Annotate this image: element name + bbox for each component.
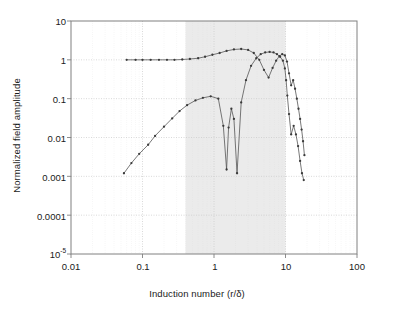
series-point-1 <box>236 172 238 174</box>
chart-figure: Normalized field amplitude 10 1 0.1 0.01… <box>0 0 394 312</box>
series-point-1 <box>217 98 219 100</box>
series-point-0 <box>189 58 191 60</box>
series-point-0 <box>258 59 260 61</box>
series-point-1 <box>288 113 290 115</box>
series-point-1 <box>293 125 295 127</box>
series-point-1 <box>130 162 132 164</box>
series-point-1 <box>233 118 235 120</box>
series-point-0 <box>247 49 249 51</box>
series-point-0 <box>292 79 294 81</box>
series-point-1 <box>303 179 305 181</box>
series-point-1 <box>230 108 232 110</box>
series-point-1 <box>194 99 196 101</box>
series-point-1 <box>123 172 125 174</box>
series-point-0 <box>253 52 255 54</box>
series-point-0 <box>233 48 235 50</box>
series-point-0 <box>271 67 273 69</box>
series-point-0 <box>303 154 305 156</box>
series-point-1 <box>299 160 301 162</box>
series-point-0 <box>281 53 283 55</box>
series-point-0 <box>290 84 292 86</box>
series-point-1 <box>222 125 224 127</box>
series-point-1 <box>245 79 247 81</box>
series-point-1 <box>138 153 140 155</box>
series-point-1 <box>285 79 287 81</box>
series-point-1 <box>290 133 292 135</box>
series-point-1 <box>260 53 262 55</box>
series-point-0 <box>296 98 298 100</box>
series-point-0 <box>297 108 299 110</box>
series-point-0 <box>225 50 227 52</box>
series-point-0 <box>197 57 199 59</box>
series-point-1 <box>210 95 212 97</box>
series-point-1 <box>186 104 188 106</box>
series-point-1 <box>272 51 274 53</box>
series-point-0 <box>294 88 296 90</box>
series-point-0 <box>263 69 265 71</box>
series-point-1 <box>178 110 180 112</box>
plot-area <box>0 0 394 312</box>
series-point-0 <box>158 59 160 61</box>
series-point-1 <box>297 145 299 147</box>
series-point-0 <box>275 60 277 62</box>
series-point-1 <box>154 135 156 137</box>
series-point-0 <box>299 118 301 120</box>
series-point-1 <box>202 97 204 99</box>
series-point-1 <box>286 94 288 96</box>
series-point-1 <box>301 172 303 174</box>
series-point-1 <box>279 56 281 58</box>
series-point-1 <box>284 67 286 69</box>
series-point-1 <box>276 53 278 55</box>
series-point-0 <box>288 72 290 74</box>
series-point-0 <box>141 59 143 61</box>
series-point-0 <box>125 59 127 61</box>
series-point-1 <box>163 126 165 128</box>
series-point-1 <box>282 60 284 62</box>
series-point-1 <box>295 133 297 135</box>
series-point-0 <box>302 140 304 142</box>
series-point-1 <box>250 65 252 67</box>
series-point-0 <box>240 48 242 50</box>
series-point-0 <box>286 60 288 62</box>
series-point-0 <box>219 52 221 54</box>
series-point-1 <box>255 57 257 59</box>
series-point-0 <box>211 54 213 56</box>
series-point-1 <box>240 101 242 103</box>
series-point-0 <box>181 58 183 60</box>
series-point-0 <box>173 59 175 61</box>
series-point-0 <box>134 59 136 61</box>
series-point-1 <box>171 117 173 119</box>
series-point-0 <box>166 59 168 61</box>
series-point-0 <box>204 56 206 58</box>
series-point-0 <box>267 76 269 78</box>
series-point-0 <box>150 59 152 61</box>
series-point-1 <box>225 168 227 170</box>
series-point-0 <box>284 54 286 56</box>
series-point-1 <box>268 51 270 53</box>
series-point-1 <box>264 51 266 53</box>
series-point-1 <box>147 144 149 146</box>
series-point-1 <box>227 126 229 128</box>
series-point-0 <box>300 128 302 130</box>
